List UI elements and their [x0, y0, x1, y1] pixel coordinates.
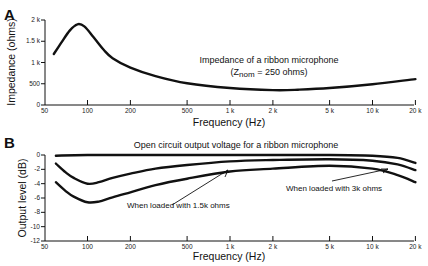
- x-tick-label: 100: [82, 107, 93, 114]
- impedance-y-axis-label: Impedance (ohms): [5, 18, 17, 106]
- x-tick-label: 200: [125, 243, 136, 250]
- impedance-title: Impedance of a ribbon microphone: [199, 55, 338, 65]
- output-level-x-ticks: 501002005001 k2 k5 k10 k20 k: [41, 236, 422, 250]
- arrow-3k: [332, 169, 388, 181]
- x-tick-label: 200: [125, 107, 136, 114]
- impedance-x-axis-label: Frequency (Hz): [193, 116, 265, 128]
- y-tick-label: -10: [31, 223, 41, 230]
- y-tick-label: 1 k: [31, 59, 40, 66]
- output-level-y-ticks: 0-2-4-6-8-10-12: [31, 151, 45, 244]
- x-tick-label: 1 k: [226, 243, 235, 250]
- y-tick-label: 0: [36, 151, 40, 158]
- annotation-3k-ohms: When loaded with 3k ohms: [286, 184, 382, 193]
- y-tick-label: 500: [29, 80, 40, 87]
- impedance-subtitle: (Znom = 250 ohms): [231, 67, 308, 79]
- x-tick-label: 50: [41, 107, 49, 114]
- y-tick-label: 0: [36, 101, 40, 108]
- y-tick-label: -4: [34, 180, 40, 187]
- output-level-x-axis-label: Frequency (Hz): [193, 250, 265, 262]
- x-tick-label: 500: [182, 107, 193, 114]
- y-tick-label: 2 k: [31, 16, 40, 23]
- x-tick-label: 10 k: [366, 107, 379, 114]
- x-tick-label: 2 k: [269, 107, 278, 114]
- x-tick-label: 2 k: [269, 243, 278, 250]
- y-tick-label: -8: [34, 208, 40, 215]
- x-tick-label: 20 k: [409, 107, 422, 114]
- output-level-curves: [56, 155, 416, 203]
- y-tick-label: -12: [31, 237, 41, 244]
- x-tick-label: 500: [182, 243, 193, 250]
- annotation-1-5k-ohms: When loaded with 1.5k ohms: [127, 201, 230, 210]
- output-level-title: Open circuit output voltage for a ribbon…: [134, 140, 339, 150]
- impedance-y-ticks: 05001 k1.5 k2 k: [26, 16, 45, 108]
- panel-letter-b: B: [4, 134, 15, 151]
- output-level-y-axis-label: Output level (dB): [16, 159, 28, 238]
- figure: A 05001 k1.5 k2 k 501002005001 k2 k5 k10…: [0, 0, 428, 266]
- x-tick-label: 1 k: [226, 107, 235, 114]
- impedance-chart: A 05001 k1.5 k2 k 501002005001 k2 k5 k10…: [4, 6, 422, 128]
- x-tick-label: 5 k: [325, 107, 334, 114]
- y-tick-label: 1.5 k: [26, 37, 41, 44]
- output-level-chart: B 0-2-4-6-8-10-12 501002005001 k2 k5 k10…: [4, 134, 422, 262]
- y-tick-label: -2: [34, 165, 40, 172]
- x-tick-label: 20 k: [409, 243, 422, 250]
- x-tick-label: 100: [82, 243, 93, 250]
- x-tick-label: 10 k: [366, 243, 379, 250]
- impedance-x-ticks: 501002005001 k2 k5 k10 k20 k: [41, 100, 422, 114]
- x-tick-label: 50: [41, 243, 49, 250]
- y-tick-label: -6: [34, 194, 40, 201]
- x-tick-label: 5 k: [325, 243, 334, 250]
